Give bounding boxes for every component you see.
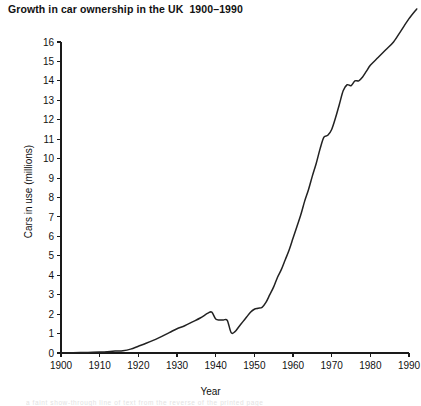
- line-chart-plot: 012345678910111213141516 190019101920193…: [0, 0, 421, 406]
- x-tick-label: 1970: [321, 360, 344, 371]
- x-tick-label: 1990: [398, 360, 421, 371]
- y-tick-label: 1: [48, 328, 54, 339]
- y-tick-label: 12: [43, 114, 55, 125]
- y-tick-label: 3: [48, 289, 54, 300]
- tick-marks-group: [57, 42, 409, 357]
- y-tick-label: 6: [48, 231, 54, 242]
- y-tick-label: 10: [43, 153, 55, 164]
- x-tick-label: 1960: [282, 360, 305, 371]
- x-tick-label: 1950: [243, 360, 266, 371]
- x-tick-label: 1920: [127, 360, 150, 371]
- y-axis-title: Cars in use (millions): [23, 112, 34, 272]
- car-ownership-trend-line: [61, 9, 417, 353]
- page-showthrough-text: a faint show-through line of text from t…: [26, 399, 406, 406]
- x-tick-labels-group: 1900191019201930194019501960197019801990: [50, 360, 421, 371]
- y-tick-label: 7: [48, 212, 54, 223]
- y-tick-labels-group: 012345678910111213141516: [43, 37, 55, 359]
- x-axis-title: Year: [0, 386, 421, 397]
- car-ownership-chart-figure: Growth in car ownership in the UK 1900–1…: [0, 0, 421, 406]
- y-tick-label: 5: [48, 250, 54, 261]
- y-tick-label: 9: [48, 173, 54, 184]
- y-tick-label: 16: [43, 37, 55, 48]
- y-tick-label: 11: [44, 134, 55, 145]
- y-tick-label: 14: [43, 75, 55, 86]
- y-tick-label: 2: [48, 309, 54, 320]
- y-tick-label: 15: [43, 56, 55, 67]
- axes-group: [61, 42, 409, 353]
- x-tick-label: 1910: [89, 360, 112, 371]
- y-tick-label: 13: [43, 95, 55, 106]
- y-tick-label: 0: [48, 348, 54, 359]
- y-tick-label: 8: [48, 192, 54, 203]
- x-tick-label: 1940: [205, 360, 228, 371]
- x-tick-label: 1980: [359, 360, 382, 371]
- x-tick-label: 1900: [50, 360, 73, 371]
- y-tick-label: 4: [48, 270, 54, 281]
- x-tick-label: 1930: [166, 360, 189, 371]
